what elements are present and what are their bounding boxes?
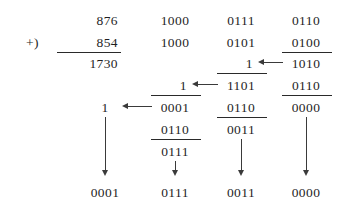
- tens-carry-arrow-stem: [264, 62, 283, 63]
- hundreds-carry-arrow-stem: [198, 84, 218, 85]
- hundreds-addend-bottom: 0101: [227, 36, 256, 50]
- thousands-carry-arrow-head: [122, 103, 128, 109]
- thousands-partial-sum: 0001: [161, 101, 190, 115]
- hundreds-first-rule: [217, 73, 267, 74]
- thousands-corrected-sum: 0111: [161, 145, 189, 159]
- tens-first-rule: [282, 52, 332, 53]
- thousands-carry-in: 1: [180, 79, 187, 93]
- thousands-first-rule: [151, 95, 201, 96]
- bcd-addition-figure: 876 +) 854 1730 0110 0100 1010 0110 0000…: [0, 0, 341, 207]
- thousands-addend-bottom: 1000: [161, 36, 190, 50]
- hundreds-partial-sum: 1101: [227, 79, 255, 93]
- hundreds-carry-arrow-head: [192, 81, 198, 87]
- hundreds-corrected-sum: 0011: [227, 123, 255, 137]
- thousands-result: 0111: [161, 186, 189, 200]
- hundreds-addend-top: 0111: [227, 14, 255, 28]
- decimal-addend-top: 876: [97, 14, 118, 28]
- thousands-correction: 0110: [161, 123, 189, 137]
- hundreds-correction: 0110: [227, 101, 255, 115]
- hundreds-result-arrow-head: [238, 170, 244, 176]
- tens-partial-sum: 1010: [292, 57, 321, 71]
- thousands-result-arrow-head: [172, 170, 178, 176]
- thousands-second-rule: [151, 139, 201, 140]
- final-carry-result: 0001: [91, 186, 120, 200]
- final-carry-arrow-stem: [105, 117, 106, 173]
- tens-result-arrow-stem: [306, 117, 307, 173]
- tens-corrected-sum: 0000: [292, 101, 321, 115]
- final-carry-digit: 1: [101, 101, 108, 115]
- decimal-sum: 1730: [89, 57, 118, 71]
- decimal-plus-sign: +): [26, 36, 39, 50]
- decimal-sum-rule: [57, 52, 121, 53]
- thousands-carry-arrow-stem: [128, 106, 152, 107]
- tens-addend-top: 0110: [292, 14, 320, 28]
- hundreds-result: 0011: [227, 186, 255, 200]
- tens-result: 0000: [292, 186, 321, 200]
- decimal-addend-bottom: 854: [97, 36, 118, 50]
- final-carry-arrow-head: [102, 170, 108, 176]
- tens-second-rule: [282, 95, 332, 96]
- tens-addend-bottom: 0100: [292, 36, 321, 50]
- hundreds-carry-in: 1: [246, 57, 253, 71]
- tens-carry-arrow-head: [258, 59, 264, 65]
- tens-result-arrow-head: [303, 170, 309, 176]
- tens-correction: 0110: [292, 79, 320, 93]
- hundreds-second-rule: [217, 117, 267, 118]
- thousands-addend-top: 1000: [161, 14, 190, 28]
- hundreds-result-arrow-stem: [241, 139, 242, 173]
